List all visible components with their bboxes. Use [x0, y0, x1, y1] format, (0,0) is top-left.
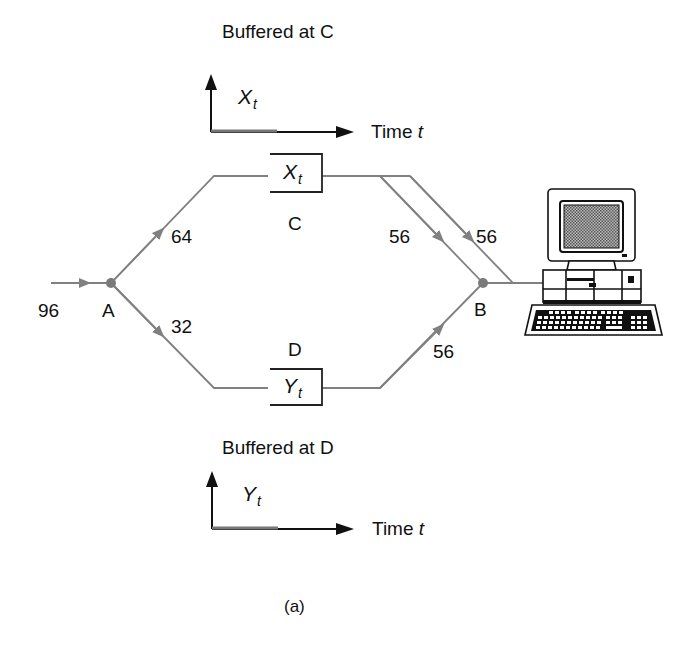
network-diagram [0, 0, 689, 651]
top-plot-y-label: Xt [238, 86, 257, 107]
rate-input: 96 [38, 301, 59, 320]
rate-c-to-b-2: 56 [476, 227, 497, 246]
bottom-plot-x-label: Time t [372, 519, 424, 538]
node-b-label: B [474, 300, 487, 319]
rate-a-to-c: 64 [171, 227, 192, 246]
node-a-label: A [102, 301, 115, 320]
node-c-label: C [288, 214, 302, 233]
rate-c-to-b-1: 56 [389, 227, 410, 246]
bottom-plot-x-text: Time [372, 518, 414, 539]
node-a-dot [106, 278, 116, 288]
rate-d-to-b: 56 [433, 342, 454, 361]
figure-caption: (a) [284, 598, 305, 615]
bottom-plot-title: Buffered at D [222, 438, 334, 457]
bottom-plot-axes [206, 471, 354, 535]
node-b-dot [478, 278, 488, 288]
bottom-plot-y-label: Yt [242, 483, 261, 504]
buffer-d-sub: t [298, 385, 302, 401]
top-plot-y-var: X [238, 85, 252, 108]
top-plot-axes [205, 74, 354, 138]
bottom-plot-y-var: Y [242, 482, 256, 505]
buffer-c-var: X [283, 160, 297, 183]
top-plot-x-text: Time [371, 121, 413, 142]
buffer-c-label: Xt [283, 161, 302, 182]
top-plot-x-label: Time t [371, 122, 423, 141]
computer-icon [525, 189, 662, 335]
rate-a-to-d: 32 [171, 317, 192, 336]
buffer-d-var: Y [283, 374, 297, 397]
bottom-plot-y-sub: t [257, 493, 261, 509]
buffer-d-label: Yt [283, 375, 302, 396]
top-plot-y-sub: t [253, 96, 257, 112]
node-d-label: D [288, 340, 302, 359]
buffer-c-sub: t [298, 171, 302, 187]
top-plot-title: Buffered at C [222, 22, 334, 41]
bottom-plot-x-var: t [419, 518, 424, 539]
top-plot-x-var: t [418, 121, 423, 142]
